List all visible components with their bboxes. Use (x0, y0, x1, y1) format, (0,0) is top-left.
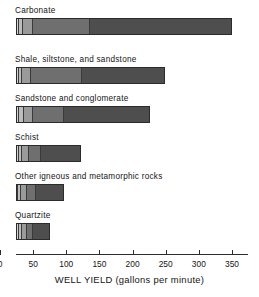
bar-segment (27, 184, 36, 201)
x-axis-title: WELL YIELD (gallons per minute) (0, 274, 259, 285)
bar-category-label: Quartzite (15, 211, 50, 221)
axis-tick-label: 300 (192, 259, 206, 269)
bar-track (16, 145, 81, 162)
bar-segment (33, 18, 91, 35)
axis-tick-label: 150 (92, 259, 106, 269)
bar-segment (64, 106, 150, 123)
axis-tick (199, 250, 200, 255)
bar-category-label: Schist (15, 133, 39, 143)
bar-category-label: Sandstone and conglomerate (15, 94, 128, 104)
x-axis: 050100150200250300350 (0, 248, 259, 262)
axis-tick-label: 100 (59, 259, 73, 269)
bar-track (16, 106, 150, 123)
axis-tick (99, 250, 100, 255)
bar-track (16, 184, 64, 201)
axis-tick (33, 250, 34, 255)
bar-segment (36, 184, 64, 201)
axis-tick-label: 0 (0, 259, 2, 269)
bar-segment (31, 67, 83, 84)
bar-segment (22, 145, 29, 162)
axis-tick-label: 250 (159, 259, 173, 269)
bar-segment (22, 67, 31, 84)
well-yield-bar-chart: CarbonateShale, siltstone, and sandstone… (0, 0, 259, 297)
bar-category-label: Carbonate (15, 6, 56, 16)
bar-segment (82, 67, 165, 84)
axis-tick-label: 350 (225, 259, 239, 269)
bar-category-label: Other igneous and metamorphic rocks (15, 172, 163, 182)
bar-track (16, 18, 232, 35)
bar-segment (33, 223, 50, 240)
bar-segment (41, 145, 81, 162)
axis-tick (133, 250, 134, 255)
axis-tick (0, 250, 1, 255)
bar-segment (23, 18, 33, 35)
axis-tick (66, 250, 67, 255)
bar-segment (33, 106, 64, 123)
bar-segment (90, 18, 232, 35)
bar-segment (24, 106, 33, 123)
axis-tick (232, 250, 233, 255)
axis-tick-label: 50 (28, 259, 37, 269)
bar-segment (29, 145, 41, 162)
axis-tick-label: 200 (126, 259, 140, 269)
axis-tick (166, 250, 167, 255)
bar-track (16, 223, 50, 240)
bar-track (16, 67, 165, 84)
bar-category-label: Shale, siltstone, and sandstone (15, 55, 137, 65)
